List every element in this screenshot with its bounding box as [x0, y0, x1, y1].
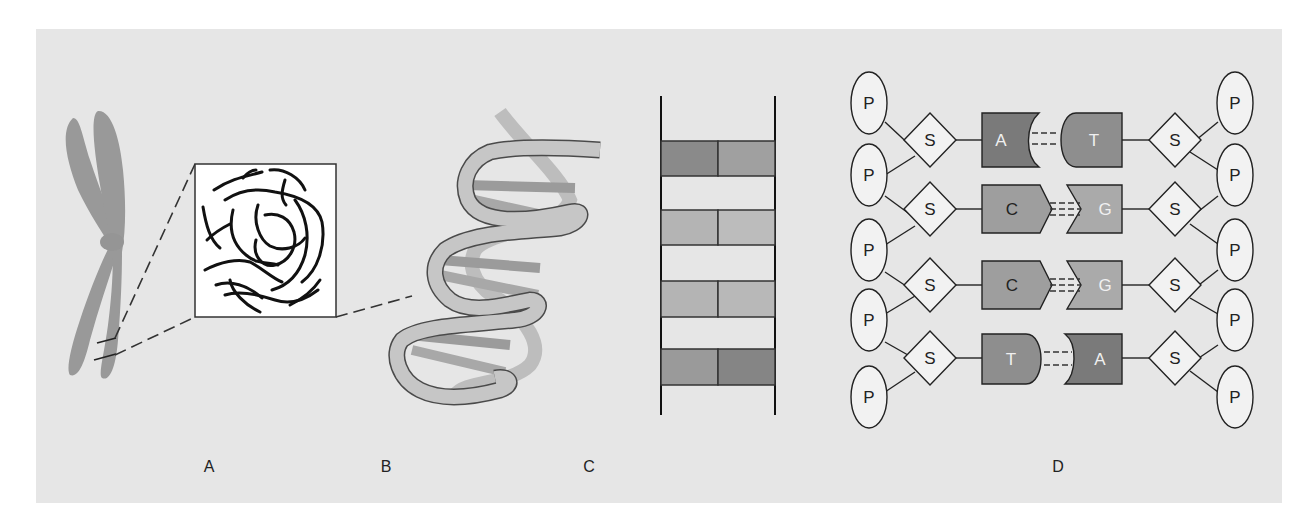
svg-text:G: G	[1098, 200, 1111, 219]
phosphates-right: P P P P P	[1217, 72, 1253, 428]
svg-text:S: S	[1169, 276, 1180, 295]
svg-text:P: P	[1229, 388, 1240, 407]
svg-text:C: C	[1006, 276, 1018, 295]
svg-text:C: C	[1006, 200, 1018, 219]
svg-text:S: S	[924, 276, 935, 295]
panel-a-chromosome	[66, 111, 125, 379]
dna-structure-figure: P P P P P P P P P P	[0, 0, 1315, 521]
panel-label-c: C	[583, 458, 595, 475]
svg-text:P: P	[1229, 166, 1240, 185]
svg-text:A: A	[995, 131, 1007, 150]
panel-c-ladder	[661, 96, 775, 415]
svg-text:P: P	[863, 241, 874, 260]
panel-label-d: D	[1052, 458, 1064, 475]
svg-text:A: A	[1094, 350, 1106, 369]
rung-4-right	[718, 349, 775, 385]
svg-text:P: P	[863, 388, 874, 407]
svg-text:S: S	[1169, 200, 1180, 219]
panel-b-double-helix	[397, 112, 600, 397]
svg-text:T: T	[1006, 350, 1016, 369]
rung-1-right	[718, 141, 775, 176]
panel-d-nucleotides: P P P P P P P P P P	[851, 72, 1253, 428]
rung-3-left	[661, 281, 718, 317]
base-pair-c-g-1: C G	[982, 185, 1122, 233]
base-pair-t-a: T A	[982, 334, 1122, 384]
rung-1-left	[661, 141, 718, 176]
sugars: S S S S S S S S	[904, 113, 1201, 385]
svg-text:P: P	[1229, 311, 1240, 330]
rung-2-right	[718, 210, 775, 245]
svg-text:S: S	[924, 349, 935, 368]
rung-3-right	[718, 281, 775, 317]
svg-text:P: P	[1229, 241, 1240, 260]
svg-text:T: T	[1089, 131, 1099, 150]
rung-4-left	[661, 349, 718, 385]
svg-text:P: P	[863, 94, 874, 113]
svg-text:S: S	[1169, 349, 1180, 368]
svg-text:P: P	[863, 166, 874, 185]
magnified-chromatin-box	[195, 164, 336, 317]
base-pair-a-t: A T	[982, 113, 1122, 167]
centromere	[100, 233, 124, 251]
base-pair-c-g-2: C G	[982, 261, 1122, 309]
phosphates-left: P P P P P	[851, 72, 887, 428]
svg-text:G: G	[1098, 276, 1111, 295]
panel-label-a: A	[204, 458, 215, 475]
panel-label-b: B	[381, 458, 392, 475]
svg-text:P: P	[1229, 94, 1240, 113]
rung-2-left	[661, 210, 718, 245]
svg-text:S: S	[1169, 131, 1180, 150]
svg-text:P: P	[863, 311, 874, 330]
svg-text:S: S	[924, 200, 935, 219]
svg-text:S: S	[924, 131, 935, 150]
